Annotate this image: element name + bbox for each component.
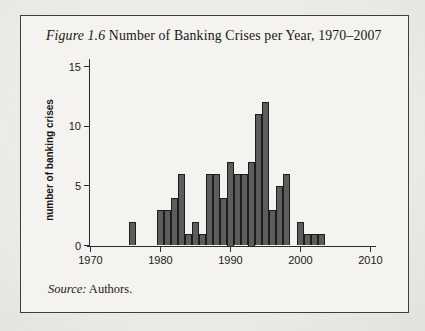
bar-1997	[276, 186, 283, 246]
banking-crises-bar-chart: number of banking crises 051015197019801…	[21, 16, 408, 312]
bar-1976	[129, 222, 136, 246]
bar-1996	[269, 210, 276, 246]
bar-2003	[318, 234, 325, 246]
y-tick-label: 5	[57, 180, 81, 192]
x-tick-label: 2000	[283, 254, 319, 266]
figure-box: Figure 1.6 Number of Banking Crises per …	[20, 15, 409, 313]
bar-1984	[185, 234, 192, 246]
x-tick-label: 1980	[143, 254, 179, 266]
book-page: Figure 1.6 Number of Banking Crises per …	[0, 0, 425, 331]
source-label: Source:	[48, 282, 86, 296]
x-tick-mark	[230, 247, 231, 252]
bar-1987	[206, 174, 213, 246]
bar-1986	[199, 234, 206, 246]
source-text: Authors.	[86, 282, 132, 296]
bar-2002	[311, 234, 318, 246]
bar-1989	[220, 198, 227, 246]
bar-1991	[234, 174, 241, 246]
x-axis-line	[87, 246, 376, 248]
x-tick-mark	[370, 247, 371, 252]
y-tick-label: 10	[57, 120, 81, 132]
bar-1980	[157, 210, 164, 246]
x-tick-label: 1970	[73, 254, 109, 266]
x-tick-mark	[160, 247, 161, 252]
x-tick-label: 1990	[213, 254, 249, 266]
y-tick-mark	[84, 245, 89, 246]
bar-1982	[171, 198, 178, 246]
y-tick-label: 0	[57, 240, 81, 252]
x-tick-label: 2010	[353, 254, 389, 266]
bar-2000	[297, 222, 304, 246]
bar-1981	[164, 210, 171, 246]
bar-1985	[192, 222, 199, 246]
bar-2001	[304, 234, 311, 246]
bar-1995	[262, 102, 269, 245]
y-axis-label: number of banking crises	[44, 92, 56, 228]
y-tick-mark	[84, 185, 89, 186]
y-axis-line	[89, 59, 90, 247]
y-tick-mark	[84, 66, 89, 67]
bar-1998	[283, 174, 290, 246]
bar-1993	[248, 162, 255, 246]
y-tick-label: 15	[57, 61, 81, 73]
bar-1992	[241, 174, 248, 246]
x-tick-mark	[90, 247, 91, 252]
bar-1988	[213, 174, 220, 246]
bar-1994	[255, 114, 262, 245]
bar-1983	[178, 174, 185, 246]
bar-1990	[227, 162, 234, 246]
y-tick-mark	[84, 126, 89, 127]
x-tick-mark	[300, 247, 301, 252]
figure-source: Source: Authors.	[48, 282, 132, 297]
